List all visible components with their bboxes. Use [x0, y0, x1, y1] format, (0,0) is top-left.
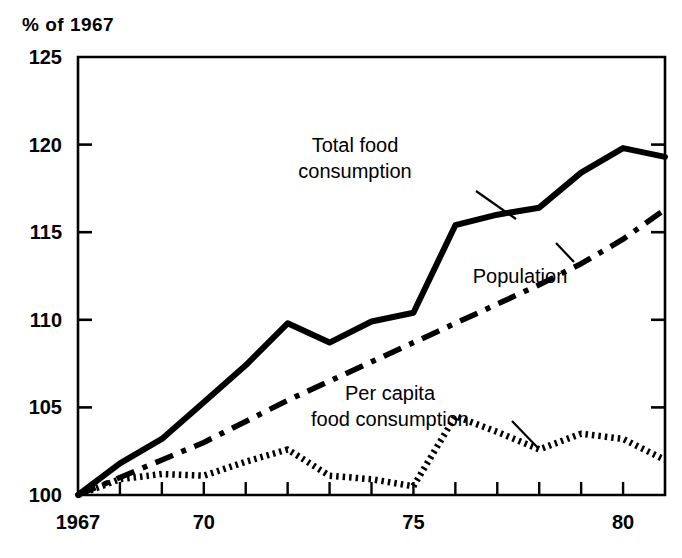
annotation-leader-line [556, 243, 574, 262]
chart-svg: 1001051101151201251967707580Total foodco… [0, 0, 682, 558]
y-tick-label: 115 [30, 221, 62, 243]
y-tick-label: 120 [29, 134, 62, 156]
annotation-0: Total foodconsumption [298, 134, 516, 219]
annotation-2: Per capitafood consumption [311, 382, 538, 448]
annotation-label: Per capita [345, 382, 436, 404]
y-tick-label: 110 [30, 309, 62, 331]
y-tick-label: 105 [29, 396, 62, 418]
annotation-label: consumption [298, 160, 411, 182]
y-tick-label: 125 [29, 46, 62, 68]
chart-container: % of 1967 1001051101151201251967707580To… [0, 0, 682, 558]
annotation-label: Total food [312, 134, 399, 156]
series-line-0 [78, 148, 665, 495]
x-tick-label: 70 [193, 511, 215, 533]
annotation-1: Population [473, 243, 574, 287]
y-tick-label: 100 [29, 484, 62, 506]
annotation-label: Population [473, 265, 568, 287]
x-tick-label: 1967 [56, 511, 101, 533]
series-line-1 [78, 209, 665, 495]
x-tick-label: 80 [612, 511, 634, 533]
annotation-label: food consumption [311, 408, 469, 430]
x-tick-label: 75 [402, 511, 424, 533]
